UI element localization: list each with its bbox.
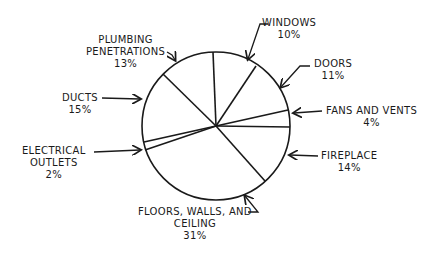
label-fans-vents: FANS AND VENTS 4% xyxy=(326,105,417,129)
label-fireplace: FIREPLACE 14% xyxy=(321,150,377,174)
label-windows: WINDOWS 10% xyxy=(262,17,316,41)
label-electrical-outlets: ELECTRICAL OUTLETS 2% xyxy=(22,145,86,181)
label-floors-walls-ceiling: FLOORS, WALLS, AND CEILING 31% xyxy=(138,206,252,242)
label-doors: DOORS 11% xyxy=(314,58,352,82)
label-plumbing-penetrations: PLUMBING PENETRATIONS 13% xyxy=(86,34,165,70)
label-ducts: DUCTS 15% xyxy=(62,92,98,116)
